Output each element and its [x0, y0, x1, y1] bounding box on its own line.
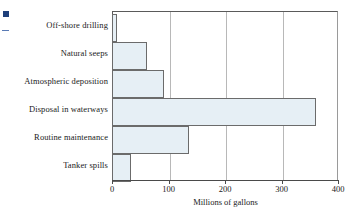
corner-dash-mark: [2, 30, 9, 31]
x-axis-title: Millions of gallons: [112, 197, 339, 207]
corner-square-mark: [3, 11, 9, 17]
x-tick-label-100: 100: [162, 184, 175, 194]
bar-off-shore-drilling[interactable]: [112, 14, 117, 42]
category-label-natural-seeps: Natural seeps: [61, 48, 108, 58]
bars-layer: [112, 11, 338, 180]
bar-disposal-in-waterways[interactable]: [112, 98, 316, 126]
category-label-disposal-in-waterways: Disposal in waterways: [29, 104, 108, 114]
bar-chart: Off-shore drilling Natural seeps Atmosph…: [0, 0, 361, 217]
bar-natural-seeps[interactable]: [112, 42, 147, 70]
bar-atmospheric-deposition[interactable]: [112, 70, 164, 98]
category-label-off-shore-drilling: Off-shore drilling: [46, 20, 108, 30]
bar-tanker-spills[interactable]: [112, 154, 131, 182]
x-tick-label-300: 300: [275, 184, 288, 194]
x-tick-label-200: 200: [219, 184, 232, 194]
category-label-tanker-spills: Tanker spills: [63, 160, 108, 170]
bar-routine-maintenance[interactable]: [112, 126, 189, 154]
x-tick-label-0: 0: [110, 184, 114, 194]
category-label-atmospheric-deposition: Atmospheric deposition: [24, 76, 108, 86]
category-label-routine-maintenance: Routine maintenance: [34, 132, 108, 142]
x-tick-label-400: 400: [332, 184, 345, 194]
